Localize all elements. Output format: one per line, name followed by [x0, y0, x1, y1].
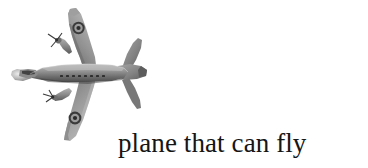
cockpit-canopy [19, 69, 38, 78]
lower-wing-roundel [69, 112, 82, 125]
upper-wing-roundel [72, 22, 84, 34]
fuselage [30, 64, 128, 84]
lower-wing [64, 76, 96, 141]
caption-text: plane that can fly [118, 126, 362, 160]
image-canvas: plane that can fly [0, 0, 368, 168]
airplane-illustration [8, 2, 156, 144]
upper-wing [68, 8, 96, 65]
lower-propeller [43, 90, 54, 102]
airplane-photograph [8, 2, 156, 144]
lower-engine-nacelle [50, 88, 72, 101]
